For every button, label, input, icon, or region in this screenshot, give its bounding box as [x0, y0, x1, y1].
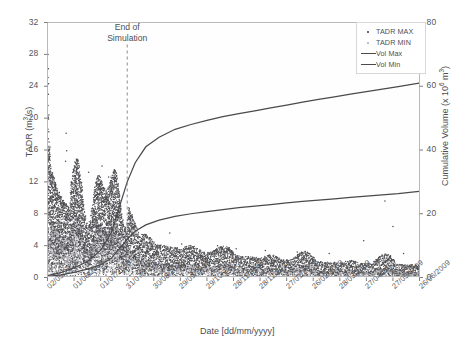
y-tick-28: 28 [13, 48, 39, 58]
y2-tick-20: 20 [427, 208, 453, 218]
annotation-line-1: End of [85, 22, 169, 33]
legend-label: TADR MIN [376, 38, 411, 47]
series-line-vol-max [48, 83, 420, 276]
legend-item-vol-max[interactable]: Vol Max [360, 48, 423, 59]
chart-legend: TADR MAXTADR MINVol MaxVol Min [356, 22, 426, 74]
y2-axis-title: Cumulative Volume (x 106 m3) [438, 56, 450, 196]
legend-item-tadr-min[interactable]: TADR MIN [360, 37, 423, 48]
x-axis-title: Date [dd/mm/yyyy] [200, 326, 275, 336]
end-of-simulation-annotation: End of Simulation [85, 22, 169, 44]
y-tick-8: 8 [13, 208, 39, 218]
legend-item-vol-min[interactable]: Vol Min [360, 59, 423, 70]
y2-tick-80: 80 [427, 17, 453, 27]
y-tick-0: 0 [13, 272, 39, 282]
legend-marker-line-icon [360, 53, 376, 54]
legend-label: Vol Max [376, 49, 402, 58]
legend-marker-line-icon [360, 64, 376, 65]
annotation-line-2: Simulation [85, 33, 169, 44]
chart-figure: 048121620242832 020406080 02/05/200801/0… [0, 0, 472, 347]
y-tick-32: 32 [13, 17, 39, 27]
y-tick-4: 4 [13, 240, 39, 250]
legend-marker-dot-light-icon [360, 42, 376, 44]
y-axis-title: TADR (m3/s) [22, 72, 34, 192]
scatter-tadr-max [46, 54, 420, 278]
legend-label: Vol Min [376, 60, 400, 69]
y-axis-tick-marks [44, 23, 48, 278]
legend-marker-dot-dark-icon [360, 31, 376, 33]
legend-item-tadr-max[interactable]: TADR MAX [360, 26, 423, 37]
legend-label: TADR MAX [376, 27, 413, 36]
